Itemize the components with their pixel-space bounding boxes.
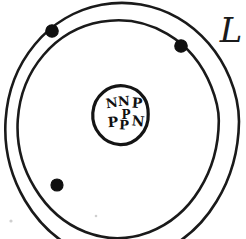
electron-inner-bottom-left	[51, 179, 63, 191]
nucleon-label: P	[107, 114, 119, 131]
nucleon-label: P	[131, 95, 143, 112]
electron-dot	[175, 40, 187, 52]
atom-diagram-canvas: N N P P P P N L	[0, 0, 246, 239]
nucleon-label: N	[131, 112, 146, 129]
atom-diagram-svg: N N P P P P N L	[0, 0, 246, 239]
electron-dot	[51, 179, 63, 191]
paper-speck	[95, 215, 98, 218]
electron-dot	[46, 25, 58, 37]
electron-outer-top-left	[46, 25, 58, 37]
nucleus: N N P P P P N	[93, 86, 149, 145]
paper-speck	[9, 219, 12, 222]
electron-inner-right	[175, 40, 187, 52]
corner-letter: L	[219, 10, 243, 50]
nucleon-label: P	[119, 117, 130, 132]
